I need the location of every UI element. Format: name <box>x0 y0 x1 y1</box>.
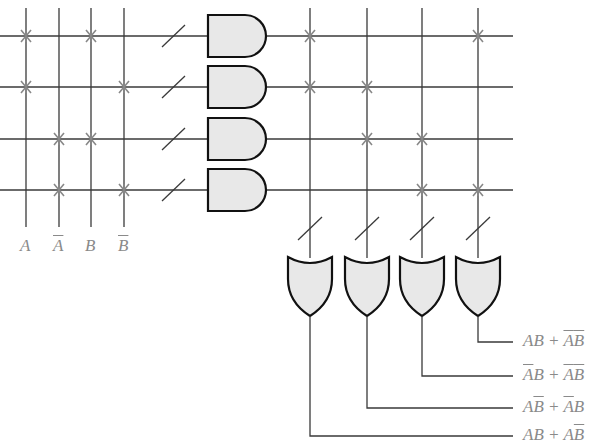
or-gate-icon <box>400 257 444 316</box>
and-gate-icon <box>208 15 266 57</box>
and-gate-icon <box>208 118 266 160</box>
output-wire-1 <box>422 316 513 376</box>
input-label-0: A <box>20 236 30 256</box>
output-wire-2 <box>367 316 513 408</box>
or-gate-icon <box>456 257 500 316</box>
input-label-2: B <box>85 236 95 256</box>
output-label-3: AB + AB <box>523 425 584 445</box>
and-gate-icon <box>208 66 266 108</box>
input-label-1: A <box>53 236 63 256</box>
input-label-3: B <box>118 236 128 256</box>
output-wire-0 <box>478 316 513 342</box>
and-gate-icon <box>208 169 266 211</box>
pla-diagram <box>0 0 600 445</box>
or-gate-icon <box>345 257 389 316</box>
or-gate-icon <box>288 257 332 316</box>
output-label-0: AB + AB <box>523 331 584 351</box>
output-label-2: AB + AB <box>523 397 584 417</box>
output-label-1: AB + AB <box>523 365 584 385</box>
